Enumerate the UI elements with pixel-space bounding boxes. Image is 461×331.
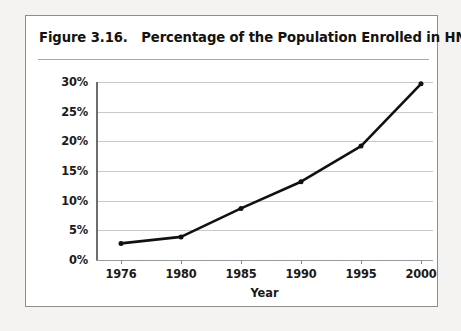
page-surround: Figure 3.16. Percentage of the Populatio… [0,0,461,331]
data-point-1976 [119,241,124,246]
data-point-2000 [419,81,424,86]
series-markers [119,81,424,246]
chart-series-line [26,16,436,305]
data-point-1980 [179,234,184,239]
data-point-1995 [359,144,364,149]
figure-container: Figure 3.16. Percentage of the Populatio… [25,15,438,307]
chart-plot-area: 0%5%10%15%20%25%30% 19761980198519901995… [26,16,436,305]
data-point-1990 [299,179,304,184]
series-polyline [121,84,421,244]
data-point-1985 [239,206,244,211]
x-axis-title: Year [96,286,433,300]
